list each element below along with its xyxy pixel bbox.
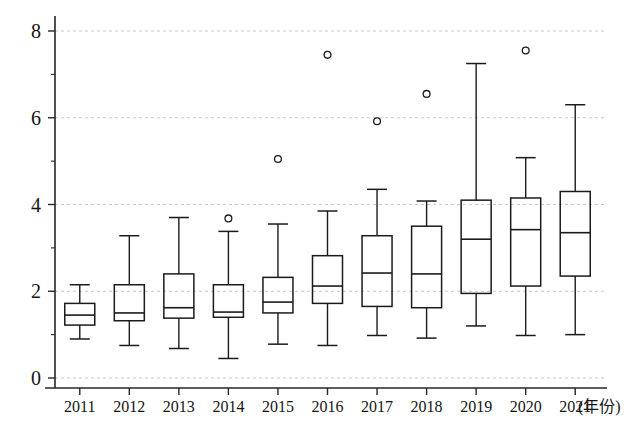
- box-plot-chart: 2011201220132014201520162017201820192020…: [0, 0, 628, 442]
- box-series: [65, 47, 590, 358]
- x-tick-label-2012: 2012: [113, 398, 145, 415]
- box-iqr-2012: [114, 285, 144, 321]
- outlier-2014-0: [225, 215, 232, 222]
- y-tick-label-6: 6: [31, 107, 41, 129]
- box-plot-2020: [511, 47, 541, 335]
- x-tick-label-2019: 2019: [460, 398, 492, 415]
- x-tick-label-2013: 2013: [163, 398, 195, 415]
- x-axis-unit-label: (年份): [578, 398, 621, 416]
- x-axis-unit-label: (年份): [578, 398, 621, 416]
- outlier-2017-0: [374, 118, 381, 125]
- x-tick-label-2017: 2017: [361, 398, 393, 415]
- box-plot-2016: [313, 51, 343, 345]
- x-tick-label-2016: 2016: [312, 398, 344, 415]
- x-axis: [45, 388, 607, 395]
- outlier-2018-0: [423, 90, 430, 97]
- box-plot-2012: [114, 236, 144, 346]
- y-tick-label-2: 2: [31, 280, 41, 302]
- outlier-2015-0: [275, 156, 282, 163]
- box-iqr-2016: [313, 256, 343, 304]
- x-tick-label-2014: 2014: [212, 398, 244, 415]
- box-plot-2013: [164, 218, 194, 349]
- x-tick-label-2011: 2011: [64, 398, 95, 415]
- y-axis: [48, 16, 55, 388]
- y-tick-labels: 02468: [31, 20, 41, 389]
- y-tick-label-8: 8: [31, 20, 41, 42]
- box-iqr-2020: [511, 198, 541, 286]
- box-iqr-2019: [461, 200, 491, 293]
- y-tick-label-0: 0: [31, 367, 41, 389]
- x-tick-label-2020: 2020: [510, 398, 542, 415]
- box-iqr-2015: [263, 277, 293, 313]
- box-plot-2018: [412, 90, 442, 338]
- box-iqr-2013: [164, 274, 194, 318]
- y-tick-label-4: 4: [31, 194, 41, 216]
- box-plot-2017: [362, 118, 392, 336]
- outlier-2016-0: [324, 51, 331, 58]
- x-tick-labels: 2011201220132014201520162017201820192020…: [64, 398, 591, 415]
- box-plot-2015: [263, 156, 293, 345]
- box-iqr-2011: [65, 303, 95, 325]
- box-iqr-2017: [362, 236, 392, 307]
- chart-canvas: 2011201220132014201520162017201820192020…: [0, 0, 628, 442]
- outlier-2020-0: [522, 47, 529, 54]
- x-tick-label-2015: 2015: [262, 398, 294, 415]
- box-plot-2019: [461, 64, 491, 326]
- box-iqr-2018: [412, 226, 442, 308]
- box-plot-2014: [213, 215, 243, 359]
- box-plot-2011: [65, 285, 95, 339]
- x-tick-label-2018: 2018: [411, 398, 443, 415]
- box-plot-2021: [560, 105, 590, 335]
- gridlines: [55, 31, 607, 378]
